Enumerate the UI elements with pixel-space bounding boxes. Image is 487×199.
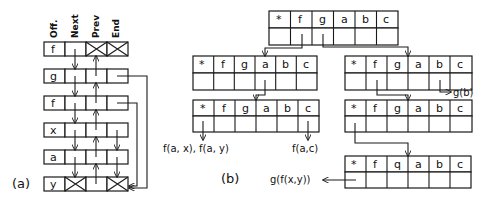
leaf-f-ac: f(a,c) [292,143,318,154]
header-next: Next [70,14,80,38]
part-a-linked-list: Off. Next Prev End f g f [12,14,147,191]
leaf-g-fxy: g(f(x,y)) [270,174,311,185]
node-after-g-f-q: * f q a b c [345,156,471,188]
leaf-f-ax-f-ay: f(a, x), f(a, y) [163,143,229,154]
svg-text:a: a [415,158,422,171]
svg-text:*: * [351,102,357,115]
diagram-canvas: Off. Next Prev End f g f [0,0,487,199]
svg-text:a: a [415,102,422,115]
list-row-1: g [44,69,128,83]
list-row-0: f [44,42,128,56]
node-after-g-f: * f g a b c [345,100,472,132]
svg-text:b: b [436,158,443,171]
svg-text:a: a [415,58,422,71]
svg-text:b: b [282,58,289,71]
svg-text:*: * [199,58,205,71]
svg-text:*: * [351,158,357,171]
svg-text:q: q [394,158,401,171]
header-prev: Prev [91,15,101,38]
svg-text:b: b [436,58,443,71]
node-after-g: * f g a b c [345,56,472,90]
header-end: End [111,19,121,38]
header-off: Off. [49,20,59,38]
row-1-offset: g [50,70,57,83]
svg-text:*: * [351,58,357,71]
row-4-offset: a [50,151,57,164]
list-row-2: f [44,96,128,110]
caption-a: (a) [12,176,30,191]
svg-text:b: b [284,102,291,115]
svg-text:c: c [303,58,309,71]
node-root: * f g a b c [269,11,398,45]
svg-text:g: g [242,102,249,115]
row-3-offset: x [50,124,57,137]
node-after-f-a: * f g a b c [193,100,319,132]
svg-text:b: b [436,102,443,115]
svg-text:c: c [457,58,463,71]
caption-b: (b) [221,171,239,186]
svg-text:c: c [457,158,463,171]
svg-text:*: * [200,102,206,115]
svg-text:a: a [341,13,348,26]
list-row-3: x [44,123,128,137]
leaf-g-b: g(b) [453,87,474,98]
svg-text:g: g [319,13,326,26]
node-after-f: * f g a b c [193,56,317,90]
svg-text:c: c [305,102,311,115]
svg-text:g: g [394,58,401,71]
list-row-5: y [44,177,128,191]
svg-text:a: a [263,102,270,115]
part-b-discrimination-tree: * f g a b c * f g a b c * f g a [163,11,474,188]
svg-text:g: g [394,102,401,115]
svg-text:*: * [276,13,282,26]
svg-text:b: b [362,13,369,26]
svg-text:c: c [457,102,463,115]
row-5-offset: y [50,178,57,191]
list-row-4: a [44,150,128,164]
svg-text:c: c [383,13,389,26]
svg-text:a: a [262,58,269,71]
svg-text:g: g [241,58,248,71]
